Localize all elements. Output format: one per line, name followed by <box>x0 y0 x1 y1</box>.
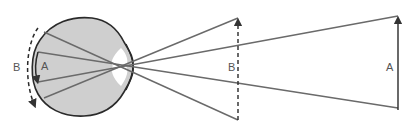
label-retina-B: B <box>13 61 20 73</box>
label-object-B: B <box>228 61 235 73</box>
label-object-A: A <box>386 61 394 73</box>
label-retina-A: A <box>41 60 49 72</box>
eye-diagram: A B B A <box>0 0 405 129</box>
